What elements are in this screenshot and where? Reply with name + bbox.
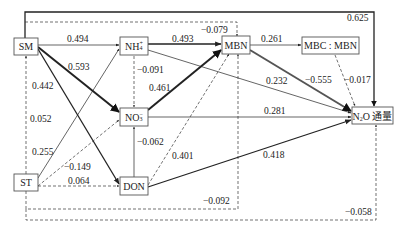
- node-mbn: MBN: [222, 36, 250, 54]
- coef-don-n2o: 0.418: [263, 150, 285, 160]
- coef-mbn-n2o: −0.555: [305, 75, 332, 85]
- coef-st-nh4: 0.255: [32, 147, 54, 157]
- coef-st-n2o: −0.058: [345, 207, 372, 217]
- coef-sm-nh4: 0.494: [67, 34, 89, 44]
- edge-sm-n2o: [25, 12, 374, 106]
- path-diagram: 0.625 −0.079 0.494 0.593 0.442 0.052 0.2…: [0, 0, 410, 229]
- coef-sm-don: 0.442: [32, 81, 54, 91]
- coef-mbn-mbcmbn: 0.261: [261, 34, 283, 44]
- svg-text:MBC : MBN: MBC : MBN: [304, 40, 357, 51]
- coef-st-don: 0.064: [68, 176, 90, 186]
- svg-text:NO−3: NO−3: [125, 111, 143, 123]
- node-n2o-flux: N2O 通量: [352, 107, 393, 124]
- node-st: ST: [14, 174, 38, 191]
- node-don: DON: [120, 177, 148, 195]
- svg-text:N2O 通量: N2O 通量: [353, 110, 393, 122]
- coef-no3-mbn: 0.461: [149, 83, 171, 93]
- svg-text:MBN: MBN: [225, 40, 248, 51]
- coef-nh4-mbn: 0.493: [172, 34, 194, 44]
- svg-text:SM: SM: [19, 41, 34, 52]
- node-nh4: NH+4: [120, 37, 148, 55]
- coef-sm-n2o: 0.625: [347, 13, 369, 23]
- node-no3: NO−3: [120, 108, 148, 126]
- coef-don-mbn: 0.401: [172, 151, 194, 161]
- coef-nh4-no3: −0.091: [137, 65, 164, 75]
- coef-st-no3: −0.149: [64, 162, 91, 172]
- coef-sm-no3: 0.593: [68, 62, 90, 72]
- edge-sm-no3: [38, 47, 119, 112]
- edge-st-n2o: [26, 125, 376, 220]
- coef-st-sm: 0.052: [30, 114, 52, 124]
- edge-no3-mbn: [148, 50, 221, 110]
- svg-text:ST: ST: [20, 177, 32, 188]
- node-sm: SM: [14, 38, 38, 55]
- coef-sm-mbn: −0.079: [201, 25, 228, 35]
- svg-text:DON: DON: [123, 181, 145, 192]
- svg-text:NH+4: NH+4: [125, 40, 143, 52]
- coef-st-mbn: −0.092: [203, 196, 230, 206]
- node-mbc-mbn: MBC : MBN: [302, 37, 359, 54]
- coef-nh4-n2o: 0.232: [266, 76, 288, 86]
- coef-mbcmbn-n2o: −0.017: [344, 75, 371, 85]
- coef-no3-n2o: 0.281: [264, 106, 286, 116]
- coef-don-no3: −0.062: [137, 137, 164, 147]
